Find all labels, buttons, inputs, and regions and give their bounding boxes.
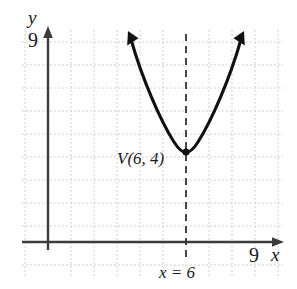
parabola-graph-figure: y 9 x 9 V(6, 4) x = 6 [0,0,297,289]
x-axis-max-tick-label: 9 [249,245,259,265]
vertex-label: V(6, 4) [117,150,164,167]
y-axis-label: y [28,8,36,27]
vertex-point-marker [182,148,189,155]
x-axis [22,237,284,247]
x-axis-label: x [271,245,279,264]
axis-of-symmetry-label: x = 6 [159,264,195,281]
y-axis-max-tick-label: 9 [28,30,38,50]
y-axis-arrow-icon [43,26,53,38]
y-axis [43,26,53,250]
